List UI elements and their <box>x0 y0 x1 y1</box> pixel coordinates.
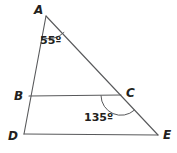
vertex-label-C: C <box>126 86 135 100</box>
vertex-label-A: A <box>33 3 43 17</box>
vertex-label-B: B <box>14 89 23 103</box>
angle-label-55: 55º <box>40 34 62 47</box>
segment-BC <box>29 95 121 96</box>
segment-DE <box>24 134 158 135</box>
vertex-label-D: D <box>8 129 18 143</box>
geometry-diagram: A B C D E 55º 135º <box>0 0 177 153</box>
vertex-label-E: E <box>163 128 172 142</box>
geometry-canvas: A B C D E 55º 135º <box>0 0 177 153</box>
angle-label-135: 135º <box>84 111 113 124</box>
